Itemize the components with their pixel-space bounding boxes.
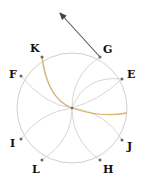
arc-center-h xyxy=(72,108,100,160)
arc-center-right xyxy=(72,79,122,108)
arc-center-j xyxy=(72,108,122,140)
label-l: L xyxy=(32,163,40,176)
point-l xyxy=(41,159,44,162)
point-k xyxy=(41,56,44,59)
point-h xyxy=(99,159,102,162)
arc-k-center xyxy=(42,57,72,108)
label-e: E xyxy=(127,68,135,81)
point-j xyxy=(121,139,124,142)
label-g: G xyxy=(103,43,112,56)
arc-g-center xyxy=(72,57,100,108)
label-h: H xyxy=(103,163,113,176)
point-center xyxy=(71,107,74,110)
label-k: K xyxy=(30,42,40,55)
diagram-canvas: K G F E I J L H xyxy=(0,0,146,180)
point-e xyxy=(121,78,124,81)
points xyxy=(20,56,124,162)
label-j: J xyxy=(126,140,132,153)
point-f xyxy=(20,75,23,78)
label-i: I xyxy=(10,137,15,150)
point-i xyxy=(20,138,23,141)
arc-center-e xyxy=(72,79,122,108)
arc-i-center xyxy=(21,108,72,139)
direction-arrow xyxy=(60,13,100,57)
label-f: F xyxy=(9,68,17,81)
point-g xyxy=(99,56,102,59)
